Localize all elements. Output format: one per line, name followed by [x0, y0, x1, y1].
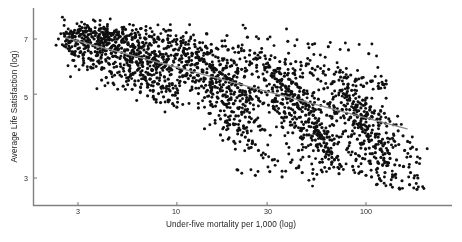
- plot-area-canvas: [0, 0, 462, 242]
- x-tick-label-100: 100: [351, 207, 381, 216]
- scatter-plot-figure: 3 10 30 100 3 5 7 Under-five mortality p…: [0, 0, 462, 242]
- x-tick-label-10: 10: [161, 207, 191, 216]
- y-axis-title: Average Life Satisfaction (log): [10, 8, 19, 205]
- x-tick-label-30: 30: [253, 207, 283, 216]
- x-axis-title: Under-five mortality per 1,000 (log): [0, 220, 462, 229]
- x-tick-label-3: 3: [63, 207, 93, 216]
